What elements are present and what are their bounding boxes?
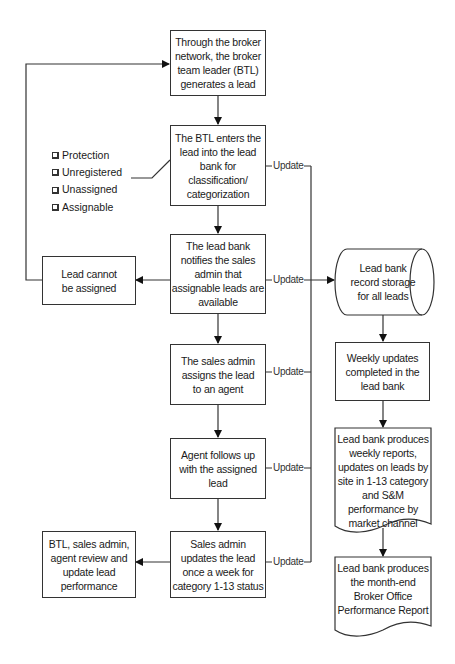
assign-agent-text: The sales admin assigns the lead to an a… bbox=[177, 354, 259, 396]
month-end-text: Lead bank produces the month-end Broker … bbox=[335, 559, 431, 617]
checklist-item: Unregistered bbox=[52, 164, 122, 181]
enter-lead-text: The BTL enters the lead into the lead ba… bbox=[171, 131, 265, 201]
agent-follow-box: Agent follows up with the assigned lead bbox=[170, 438, 266, 499]
month-end-doc: Lead bank produces the month-end Broker … bbox=[335, 559, 431, 619]
storage-text: Lead bank record storage for all leads bbox=[346, 261, 420, 303]
update-label: Update bbox=[272, 160, 304, 172]
review-box: BTL, sales admin, agent review and updat… bbox=[42, 531, 136, 598]
cannot-assign-text: Lead cannot be assigned bbox=[57, 267, 121, 295]
agent-follow-text: Agent follows up with the assigned lead bbox=[171, 448, 265, 490]
enter-lead-box: The BTL enters the lead into the lead ba… bbox=[170, 125, 266, 206]
weekly-reports-text: Lead bank produces weekly reports, updat… bbox=[335, 430, 431, 530]
checklist-item: Protection bbox=[52, 147, 122, 164]
admin-update-box: Sales admin updates the lead once a week… bbox=[170, 531, 266, 598]
cannot-assign-box: Lead cannot be assigned bbox=[42, 256, 136, 305]
weekly-updates-box: Weekly updates completed in the lead ban… bbox=[335, 342, 430, 401]
update-label: Update bbox=[272, 274, 304, 286]
update-label: Update bbox=[272, 462, 304, 474]
notify-admin-text: The lead bank notifies the sales admin t… bbox=[171, 239, 265, 309]
assign-agent-box: The sales admin assigns the lead to an a… bbox=[170, 344, 266, 405]
checkbox-icon bbox=[52, 169, 59, 176]
category-checklist: Protection Unregistered Unassigned Assig… bbox=[52, 147, 122, 216]
checklist-item: Unassigned bbox=[52, 181, 122, 198]
notify-admin-box: The lead bank notifies the sales admin t… bbox=[170, 234, 266, 314]
checkbox-icon bbox=[52, 187, 59, 194]
checkbox-icon bbox=[52, 204, 59, 211]
checkbox-icon bbox=[52, 152, 59, 159]
update-label: Update bbox=[272, 366, 304, 378]
update-label: Update bbox=[272, 556, 304, 568]
generate-lead-text: Through the broker network, the broker t… bbox=[171, 35, 265, 91]
checklist-item: Assignable bbox=[52, 199, 122, 216]
storage-cylinder: Lead bank record storage for all leads bbox=[340, 249, 426, 315]
generate-lead-box: Through the broker network, the broker t… bbox=[170, 30, 266, 96]
admin-update-text: Sales admin updates the lead once a week… bbox=[171, 537, 265, 593]
weekly-reports-doc: Lead bank produces weekly reports, updat… bbox=[335, 430, 431, 518]
weekly-updates-text: Weekly updates completed in the lead ban… bbox=[336, 351, 429, 393]
review-text: BTL, sales admin, agent review and updat… bbox=[43, 537, 135, 593]
